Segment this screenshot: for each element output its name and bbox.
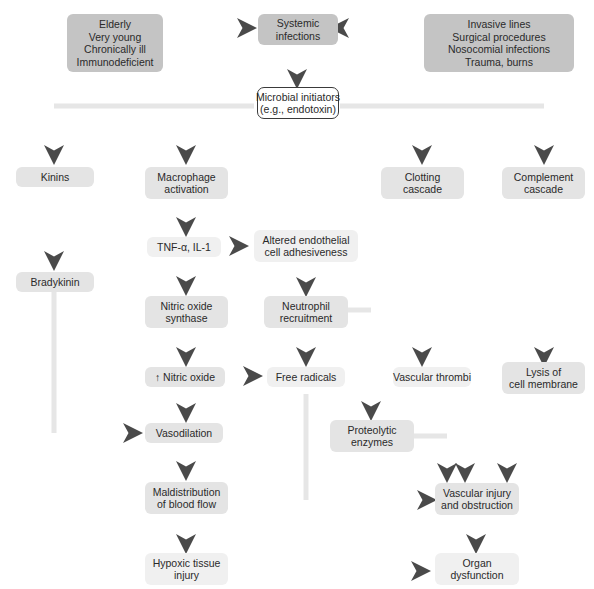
node-vascular-injury-obstruction: Vascular injury and obstruction [435, 483, 519, 515]
node-increased-nitric-oxide: ↑ Nitric oxide [145, 367, 225, 387]
node-bradykinin: Bradykinin [16, 272, 94, 292]
node-nitric-oxide-synthase: Nitric oxide synthase [145, 296, 228, 328]
node-free-radicals: Free radicals [267, 367, 345, 387]
node-organ-dysfunction: Organ dysfunction [435, 553, 519, 585]
node-vasodilation: Vasodilation [145, 423, 223, 443]
node-vascular-thrombi: Vascular thrombi [393, 367, 471, 387]
node-microbial-initiators: Microbial initiators (e.g., endotoxin) [257, 87, 339, 119]
node-altered-endothelial-adhesiveness: Altered endothelial cell adhesiveness [254, 230, 358, 262]
node-iatrogenic-risk-factors: Invasive lines Surgical procedures Nosoc… [424, 14, 574, 72]
node-proteolytic-enzymes: Proteolytic enzymes [330, 420, 414, 452]
node-hypoxic-tissue-injury: Hypoxic tissue injury [145, 553, 228, 585]
node-maldistribution-blood-flow: Maldistribution of blood flow [145, 482, 228, 514]
septic-shock-flow-diagram: Elderly Very young Chronically ill Immun… [0, 0, 594, 589]
node-complement-cascade: Complement cascade [502, 167, 585, 199]
node-host-risk-factors: Elderly Very young Chronically ill Immun… [67, 14, 163, 72]
node-lysis-cell-membrane: Lysis of cell membrane [502, 362, 585, 394]
node-macrophage-activation: Macrophage activation [145, 167, 228, 199]
node-systemic-infections: Systemic infections [258, 14, 338, 45]
node-clotting-cascade: Clotting cascade [381, 167, 464, 199]
node-neutrophil-recruitment: Neutrophil recruitment [264, 296, 348, 328]
node-kinins: Kinins [16, 167, 94, 187]
node-tnf-il1: TNF-α, IL-1 [147, 237, 221, 257]
